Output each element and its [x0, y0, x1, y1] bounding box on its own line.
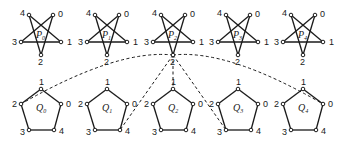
graph-name: Q1 [102, 102, 112, 114]
vertex-node [51, 13, 55, 17]
graph-name: P3 [232, 29, 242, 41]
pentagram-p4: 01234P4 [274, 8, 334, 67]
vertex-label: 3 [86, 127, 91, 137]
vertex-label: 1 [39, 77, 44, 87]
vertex-label: 1 [236, 77, 241, 87]
vertex-label: 0 [328, 99, 333, 109]
dashed-line [120, 55, 173, 130]
vertex-label: 0 [132, 99, 137, 109]
vertex-label: 4 [282, 8, 287, 18]
vertex-label: 4 [152, 8, 157, 18]
vertex-node [105, 87, 109, 91]
vertex-label: 0 [263, 99, 268, 109]
edge [238, 89, 258, 104]
vertex-label: 2 [78, 99, 83, 109]
vertex-node [314, 128, 318, 132]
vertex-node [151, 102, 155, 106]
edge [41, 89, 61, 104]
vertex-label: 2 [144, 99, 149, 109]
vertex-node [289, 128, 293, 132]
pentagon-q3: 01234Q3 [209, 77, 268, 137]
graph-name: P4 [297, 29, 307, 41]
pentagram-p0: 01234P0 [12, 8, 72, 67]
vertex-label: 0 [58, 9, 63, 19]
vertex-label: 3 [217, 127, 222, 137]
vertex-label: 4 [125, 126, 130, 136]
pentagram-p2: 01234P2 [144, 8, 204, 67]
vertex-label: 1 [301, 77, 306, 87]
vertex-node [184, 128, 188, 132]
vertex-node [125, 102, 129, 106]
vertex-node [236, 87, 240, 91]
vertex-node [183, 13, 187, 17]
vertex-label: 1 [264, 37, 269, 47]
vertex-node [59, 40, 63, 44]
vertex-node [191, 102, 195, 106]
vertex-node [19, 102, 23, 106]
vertex-label: 3 [209, 37, 214, 47]
vertex-label: 2 [12, 99, 17, 109]
vertex-label: 4 [86, 8, 91, 18]
vertex-node [216, 102, 220, 106]
vertex-label: 3 [274, 37, 279, 47]
vertex-node [159, 128, 163, 132]
vertex-label: 0 [320, 9, 325, 19]
vertex-node [27, 128, 31, 132]
vertex-label: 3 [144, 37, 149, 47]
vertex-label: 0 [190, 9, 195, 19]
vertex-node [281, 102, 285, 106]
vertex-node [281, 40, 285, 44]
vertex-node [125, 40, 129, 44]
vertex-node [151, 40, 155, 44]
vertex-node [248, 13, 252, 17]
vertex-label: 2 [300, 57, 305, 67]
vertex-node [224, 13, 228, 17]
graph-name: Q4 [298, 102, 308, 114]
vertex-node [159, 13, 163, 17]
pentagon-q2: 01234Q2 [144, 77, 203, 137]
vertex-node [39, 87, 43, 91]
vertex-node [93, 13, 97, 17]
vertex-label: 2 [274, 99, 279, 109]
graph-name: P2 [167, 29, 177, 41]
vertex-node [321, 40, 325, 44]
vertex-node [216, 40, 220, 44]
pentagon-q0: 01234Q0 [12, 77, 71, 137]
vertex-label: 1 [199, 37, 204, 47]
pentagon-row: 01234Q001234Q101234Q201234Q301234Q4 [12, 77, 333, 137]
vertex-label: 2 [170, 57, 175, 67]
vertex-label: 1 [329, 37, 334, 47]
vertex-label: 0 [255, 9, 260, 19]
vertex-label: 2 [209, 99, 214, 109]
vertex-node [52, 128, 56, 132]
vertex-node [256, 102, 260, 106]
vertex-label: 1 [105, 77, 110, 87]
vertex-node [289, 13, 293, 17]
vertex-node [191, 40, 195, 44]
vertex-label: 4 [59, 126, 64, 136]
vertex-node [256, 40, 260, 44]
vertex-label: 3 [78, 37, 83, 47]
vertex-label: 1 [133, 37, 138, 47]
edge [173, 89, 193, 104]
vertex-label: 4 [20, 8, 25, 18]
vertex-node [59, 102, 63, 106]
graph-name: Q3 [233, 102, 243, 114]
vertex-label: 3 [152, 127, 157, 137]
vertex-label: 2 [235, 57, 240, 67]
graph-name: Q0 [36, 102, 46, 114]
vertex-node [85, 40, 89, 44]
vertex-node [19, 40, 23, 44]
vertex-node [118, 128, 122, 132]
vertex-label: 1 [171, 77, 176, 87]
vertex-label: 0 [198, 99, 203, 109]
vertex-label: 4 [217, 8, 222, 18]
pentagram-row: 01234P001234P101234P201234P301234P4 [12, 8, 334, 67]
pentagon-q1: 01234Q1 [78, 77, 137, 137]
dashed-line [173, 55, 226, 130]
vertex-label: 3 [282, 127, 287, 137]
vertex-node [171, 87, 175, 91]
vertex-node [93, 128, 97, 132]
vertex-node [117, 13, 121, 17]
edge [107, 89, 127, 104]
